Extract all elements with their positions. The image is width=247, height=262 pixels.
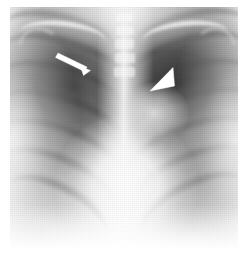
plate-bottom-margin xyxy=(10,7,238,248)
figure-page xyxy=(0,0,247,262)
radiograph-image xyxy=(10,7,238,248)
chest-radiograph-figure xyxy=(10,7,238,248)
